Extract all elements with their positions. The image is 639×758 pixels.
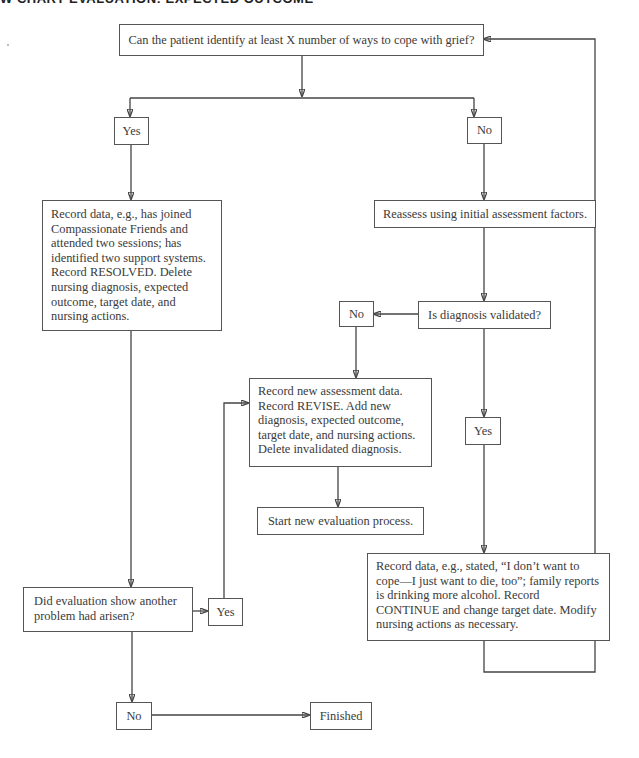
no-problem-label: No <box>126 709 141 724</box>
yes-top-label: Yes <box>122 124 140 139</box>
no-problem-box: No <box>116 702 152 730</box>
resolved-record-text: Record data, e.g., has joined Compassion… <box>51 207 206 323</box>
diagnosis-validated-text: Is diagnosis validated? <box>428 308 541 323</box>
start-new-box: Start new evaluation process. <box>257 507 424 535</box>
yes-problem-label: Yes <box>216 605 234 620</box>
diagnosis-validated-box: Is diagnosis validated? <box>418 301 551 329</box>
another-problem-text: Did evaluation show another problem had … <box>34 594 177 623</box>
continue-record-text: Record data, e.g., stated, “I don’t want… <box>376 559 599 631</box>
yes-validated-box: Yes <box>465 417 501 445</box>
yes-top-box: Yes <box>114 117 149 145</box>
reassess-text: Reassess using initial assessment factor… <box>383 207 587 222</box>
no-validated-label: No <box>349 307 364 322</box>
yes-problem-box: Yes <box>208 598 243 626</box>
revise-record-box: Record new assessment data. Record REVIS… <box>249 378 432 467</box>
resolved-record-box: Record data, e.g., has joined Compassion… <box>42 200 222 331</box>
revise-record-text: Record new assessment data. Record REVIS… <box>258 384 415 456</box>
another-problem-box: Did evaluation show another problem had … <box>23 587 193 632</box>
start-question-text: Can the patient identify at least X numb… <box>129 33 475 48</box>
finished-label: Finished <box>320 709 363 724</box>
start-new-text: Start new evaluation process. <box>268 514 413 529</box>
no-validated-box: No <box>339 301 374 327</box>
no-top-box: No <box>467 117 502 144</box>
yes-validated-label: Yes <box>474 424 492 439</box>
finished-box: Finished <box>310 702 372 730</box>
no-top-label: No <box>477 123 492 138</box>
reassess-box: Reassess using initial assessment factor… <box>374 200 596 228</box>
start-question-box: Can the patient identify at least X numb… <box>119 24 484 56</box>
continue-record-box: Record data, e.g., stated, “I don’t want… <box>367 553 610 641</box>
